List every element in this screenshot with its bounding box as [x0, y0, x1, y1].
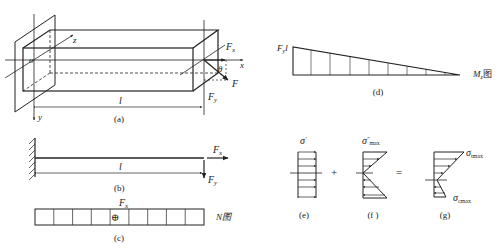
- plus-operator: +: [331, 166, 337, 178]
- sigma-prime-label: σ′: [300, 135, 307, 146]
- n-diagram-label: N图: [215, 212, 233, 222]
- x-label: x: [239, 60, 244, 70]
- fixed-wall-plane: [15, 15, 55, 112]
- panel-d-moment-diagram: Fyl Mz图 (d): [276, 43, 492, 97]
- sigma-cmax-label: σcmax: [453, 192, 471, 204]
- panel-g-combined-stress: σtmax σcmax (g): [425, 147, 483, 220]
- moment-triangle: [293, 47, 460, 75]
- force-x-label-b: Fx: [212, 144, 223, 157]
- caption-g: (g): [440, 210, 451, 220]
- theta-label: θ: [218, 64, 223, 74]
- force-arrow-F: [204, 60, 228, 80]
- sigma-tmax-label: σtmax: [466, 147, 483, 159]
- equals-operator: =: [396, 166, 402, 178]
- max-moment-label: Fyl: [276, 43, 288, 54]
- caption-f: (f ): [367, 210, 378, 220]
- force-label: F: [231, 78, 239, 89]
- z-label: z: [72, 35, 77, 45]
- y-label: y: [37, 112, 42, 122]
- origin-label: o: [29, 55, 34, 65]
- positive-sign-icon: ⊕: [111, 212, 119, 223]
- length-label-b: l: [119, 161, 122, 172]
- caption-d: (d): [373, 87, 384, 97]
- caption-e: (e): [299, 210, 309, 220]
- figure-canvas: o z x y l Fx θ F Fy (a) l Fx Fy (b): [0, 0, 497, 251]
- panel-b-cantilever: l Fx Fy (b): [29, 138, 228, 193]
- caption-b: (b): [114, 183, 125, 193]
- sigma-max-bending-label: σ″max: [362, 135, 380, 146]
- panel-f-bending-stress: σ″max (f ): [356, 135, 387, 220]
- force-y-label: Fy: [207, 91, 218, 104]
- caption-c: (c): [114, 233, 124, 243]
- force-y-label-b: Fy: [207, 174, 218, 187]
- length-label: l: [119, 95, 122, 106]
- beam-front-face: [23, 48, 193, 91]
- m-diagram-label: Mz图: [472, 69, 492, 80]
- force-x-label: Fx: [225, 41, 236, 54]
- caption-a: (a): [114, 114, 124, 124]
- panel-c-axial-force-diagram: ⊕ Fx N图 (c): [35, 197, 233, 243]
- panel-e-uniform-stress: σ′ (e): [290, 135, 322, 220]
- panel-a-beam-3d: o z x y l Fx θ F Fy (a): [5, 14, 244, 124]
- force-x-label-c: Fx: [118, 197, 129, 210]
